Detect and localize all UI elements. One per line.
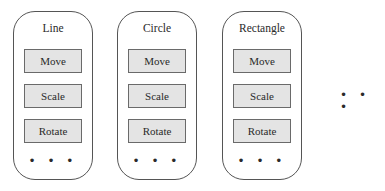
class-title: Rectangle — [223, 22, 301, 34]
method-scale: Scale — [128, 84, 186, 108]
class-circle: Circle Move Scale Rotate • • • — [117, 11, 197, 180]
method-rotate: Rotate — [233, 119, 291, 143]
more-methods-ellipsis: • • • — [223, 155, 301, 167]
method-move: Move — [233, 49, 291, 73]
method-rotate: Rotate — [24, 119, 82, 143]
method-scale: Scale — [233, 84, 291, 108]
more-methods-ellipsis: • • • — [118, 155, 196, 167]
class-title: Circle — [118, 22, 196, 34]
class-rectangle: Rectangle Move Scale Rotate • • • — [222, 11, 302, 180]
more-methods-ellipsis: • • • — [14, 155, 92, 167]
method-rotate: Rotate — [128, 119, 186, 143]
more-classes-ellipsis: • • • — [340, 89, 385, 113]
method-move: Move — [24, 49, 82, 73]
method-move: Move — [128, 49, 186, 73]
class-line: Line Move Scale Rotate • • • — [13, 11, 93, 180]
class-title: Line — [14, 22, 92, 34]
method-scale: Scale — [24, 84, 82, 108]
